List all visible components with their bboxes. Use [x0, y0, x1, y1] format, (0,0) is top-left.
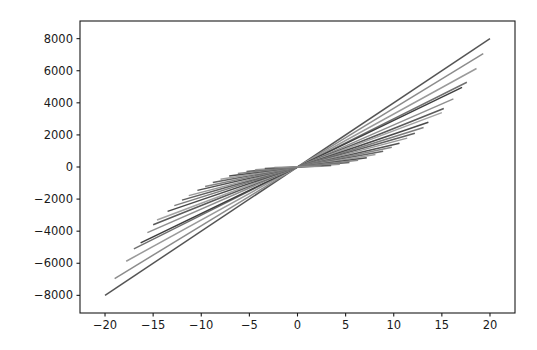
x-tick-label: 15	[435, 318, 450, 332]
matplotlib-figure: 80006000400020000−2000−4000−6000−8000 −2…	[0, 0, 537, 350]
x-axis-tick-labels: −20−15−10−505101520	[93, 318, 497, 332]
y-tick-label: 0	[66, 160, 73, 174]
x-tick-label: −5	[241, 318, 258, 332]
y-tick-label: −6000	[34, 256, 73, 270]
y-tick-label: 8000	[44, 32, 73, 46]
x-tick-label: 10	[386, 318, 401, 332]
y-tick-label: 6000	[44, 64, 73, 78]
x-tick-label: −20	[93, 318, 117, 332]
y-tick-label: −2000	[34, 192, 73, 206]
x-tick-label: 0	[294, 318, 301, 332]
x-tick-label: −10	[189, 318, 213, 332]
y-tick-label: −8000	[34, 288, 73, 302]
y-tick-label: 4000	[44, 96, 73, 110]
y-tick-label: 2000	[44, 128, 73, 142]
x-tick-label: 20	[483, 318, 498, 332]
x-tick-label: 5	[342, 318, 349, 332]
line-chart: 80006000400020000−2000−4000−6000−8000 −2…	[0, 0, 537, 350]
y-tick-label: −4000	[34, 224, 73, 238]
x-tick-label: −15	[141, 318, 165, 332]
